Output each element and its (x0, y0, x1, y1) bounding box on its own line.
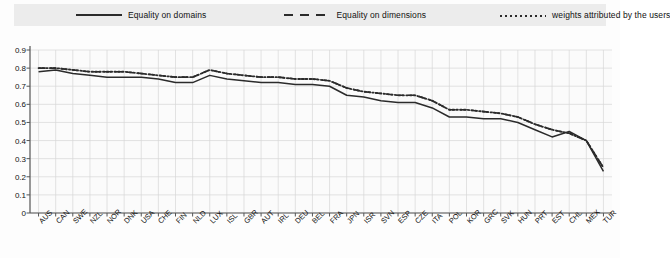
legend-item-weights-attributed-by-users: weights attributed by the users (500, 4, 670, 26)
x-axis-tick-label: SWE (71, 207, 89, 225)
x-axis-tick-label: HUN (516, 208, 534, 226)
x-axis-tick-label: EST (550, 209, 567, 226)
x-axis-tick-label: NZL (88, 209, 104, 225)
x-axis-tick-label: SVN (379, 208, 396, 225)
x-axis-tick-label: PRT (533, 209, 550, 226)
x-axis-labels: AUSCANSWENZLNORDNKUSACHEFINNLDLUXISLGBRA… (0, 28, 620, 258)
legend-label: Equality on dimensions (336, 10, 426, 20)
line-dotted-icon (500, 11, 546, 20)
chart-legend: Equality on domains Equality on dimensio… (14, 4, 606, 26)
x-axis-tick-label: AUS (37, 208, 54, 225)
x-axis-tick-label: CHE (156, 208, 173, 225)
x-axis-tick-label: LUX (208, 209, 225, 226)
line-solid-icon (76, 11, 122, 20)
x-axis-tick-label: GRC (482, 207, 500, 225)
x-axis-tick-label: ISR (362, 210, 377, 225)
x-axis-tick-label: JPN (345, 209, 361, 225)
x-axis-tick-label: DNK (122, 208, 139, 225)
x-axis-tick-label: DEU (293, 208, 310, 225)
x-axis-tick-label: POL (447, 209, 464, 226)
x-axis-tick-label: ITA (430, 211, 444, 225)
x-axis-tick-label: BEL (310, 209, 326, 225)
x-axis-tick-label: NLD (191, 209, 208, 226)
legend-item-equality-on-dimensions: Equality on dimensions (284, 4, 426, 26)
legend-label: Equality on domains (128, 10, 206, 20)
legend-label: weights attributed by the users (552, 10, 670, 20)
x-axis-tick-label: CHL (567, 209, 584, 226)
x-axis-tick-label: KOR (465, 208, 483, 226)
x-axis-tick-label: CZE (413, 209, 430, 226)
x-axis-tick-label: SVK (499, 209, 516, 226)
x-axis-tick-label: USA (139, 208, 156, 225)
x-axis-tick-label: IRL (276, 211, 291, 226)
x-axis-tick-label: ESP (396, 209, 413, 226)
x-axis-tick-label: GBR (242, 208, 260, 226)
x-axis-tick-label: AUT (259, 209, 276, 226)
plot-area: 0.90.80.70.60.50.40.30.20.10 AUSCANSWENZ… (0, 28, 620, 258)
x-axis-tick-label: CAN (54, 208, 71, 225)
line-dashed-icon (284, 11, 330, 20)
x-axis-tick-label: TUR (601, 208, 618, 225)
x-axis-tick-label: ISL (225, 211, 239, 225)
x-axis-tick-label: NOR (105, 207, 123, 225)
legend-item-equality-on-domains: Equality on domains (76, 4, 206, 26)
x-axis-tick-label: FIN (174, 211, 189, 226)
x-axis-tick-label: FRA (328, 209, 345, 226)
x-axis-tick-label: MEX (584, 208, 602, 226)
